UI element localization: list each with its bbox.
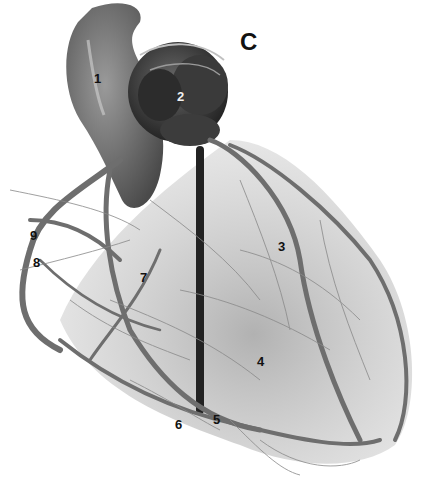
heart-cast-illustration	[0, 0, 426, 490]
heart-vascular-cast-figure: C 1 2 3 4 5 6 7 8 9	[0, 0, 426, 490]
ventricle-vascular-mesh	[60, 140, 412, 464]
